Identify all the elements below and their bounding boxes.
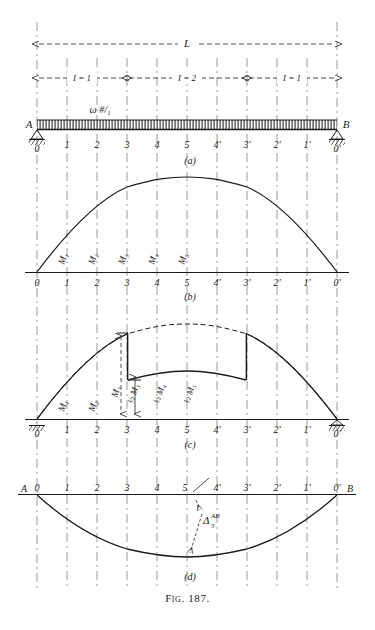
station-label-a-2: 2 — [95, 139, 100, 150]
station-labels-b: 0 1 2 3 4 5 4' 3' 2' 1' 0' — [35, 277, 342, 288]
station-label-b-3: 3 — [124, 277, 130, 288]
station-labels-a: 0 1 2 3 4 5 4' 3' 2' 1' 0' — [35, 139, 342, 154]
station-label-a-0: 0 — [35, 143, 40, 154]
uniform-load-strip — [37, 120, 337, 129]
station-label-a-1: 1 — [65, 139, 70, 150]
station-label-b-5: 5 — [185, 277, 190, 288]
station-label-b-2p: 2' — [273, 277, 281, 288]
station-label-c-3p: 3' — [242, 424, 251, 435]
station-label-c-5: 5 — [185, 424, 190, 435]
deflection-end-label-A: A — [20, 483, 28, 494]
station-label-c-0: 0 — [35, 428, 40, 439]
station-label-d-3: 3 — [124, 482, 130, 493]
panel-d: A B 0 1 2 3 4 5 4' 3' 2' 1' 0' Δ AB 5 (d… — [18, 478, 356, 583]
mi-curve-left-c — [37, 334, 127, 419]
figure-caption: Fig. 187. — [0, 592, 375, 604]
station-labels-d: 0 1 2 3 4 5 4' 3' 2' 1' 0' — [35, 482, 342, 493]
station-label-a-1p: 1' — [303, 139, 311, 150]
station-label-c-3: 3 — [124, 424, 130, 435]
station-label-c-4p: 4' — [213, 424, 221, 435]
station-label-b-4p: 4' — [213, 277, 221, 288]
panel-tag-d: (d) — [184, 571, 196, 583]
station-label-b-1p: 1' — [303, 277, 311, 288]
moment-ordinate-labels-b: M₁ M₂ M₃ M₄ M₅ — [56, 251, 189, 266]
station-labels-c: 0 1 2 3 4 5 4' 3' 2' 1' 0' — [35, 424, 342, 439]
figure-187: L I = 1 I = 2 I = 1 ω #/₁ A B — [0, 0, 375, 630]
deflection-annotation-d: Δ AB 5 — [202, 512, 220, 530]
deflection-delta-symbol: Δ — [202, 514, 209, 526]
station-label-d-4: 4 — [155, 482, 160, 493]
station-label-c-1p: 1' — [303, 424, 311, 435]
station-label-a-3p: 3' — [242, 139, 251, 150]
station-label-b-0p: 0' — [333, 277, 341, 288]
station-label-d-1p: 1' — [303, 482, 311, 493]
mi-curve-right-c — [247, 334, 337, 419]
panel-tag-a: (a) — [184, 155, 196, 167]
station-label-a-2p: 2' — [273, 139, 281, 150]
reduced-label-c-halfM5: ½ M₅ — [181, 383, 197, 405]
station-label-d-2p: 2' — [273, 482, 281, 493]
load-hatch-fill — [37, 120, 337, 129]
leader-lower-d — [190, 514, 202, 553]
station-label-d-3p: 3' — [242, 482, 251, 493]
reduced-label-c-halfM3: ½ M₃ — [125, 383, 141, 405]
station-label-c-0p: 0' — [333, 428, 341, 439]
station-label-b-3p: 3' — [242, 277, 251, 288]
station-gridlines — [37, 22, 337, 588]
station-label-a-4: 4 — [155, 139, 160, 150]
station-label-c-2p: 2' — [273, 424, 281, 435]
station-label-d-0: 0 — [35, 482, 40, 493]
beam-end-label-B: B — [343, 118, 350, 130]
station-label-c-2: 2 — [95, 424, 100, 435]
station-label-b-0: 0 — [35, 277, 40, 288]
dimension-label-seg2: I = 2 — [177, 73, 197, 83]
station-label-b-1: 1 — [65, 277, 70, 288]
reduced-label-c-halfM4: ½ M₄ — [151, 383, 167, 405]
station-label-d-2: 2 — [95, 482, 100, 493]
leader-upper-d — [193, 478, 209, 492]
panel-tag-c: (c) — [184, 439, 196, 451]
moment-label-b-M2: M₂ — [86, 251, 100, 266]
dimension-label-seg3: I = 1 — [282, 73, 301, 83]
station-label-b-2: 2 — [95, 277, 100, 288]
station-label-d-1: 1 — [65, 482, 70, 493]
load-intensity-label: ω #/₁ — [90, 104, 111, 115]
station-label-b-4: 4 — [155, 277, 160, 288]
station-label-a-3: 3 — [124, 139, 130, 150]
leader-mid-d — [196, 500, 200, 510]
station-label-a-5: 5 — [185, 139, 190, 150]
dimension-label-L: L — [183, 37, 190, 49]
station-label-c-1: 1 — [65, 424, 70, 435]
dimension-overall-span: L — [39, 36, 335, 50]
station-label-d-4p: 4' — [213, 482, 221, 493]
moment-label-c-M3: M₃ — [109, 385, 122, 400]
deflection-superscript-AB: AB — [210, 512, 220, 520]
station-label-d-0p: 0' — [333, 482, 341, 493]
station-label-c-4: 4 — [155, 424, 160, 435]
dimension-segments: I = 1 I = 2 I = 1 — [39, 70, 335, 84]
panel-tag-b: (b) — [184, 291, 196, 303]
ordinate-arrow-halfM3-c: ½ M₃ — [125, 377, 141, 414]
station-label-d-5: 5 — [183, 482, 188, 493]
station-label-a-4p: 4' — [213, 139, 221, 150]
deflection-end-label-B: B — [347, 483, 353, 494]
moment-label-c-M2: M₂ — [86, 398, 100, 413]
figure-canvas: L I = 1 I = 2 I = 1 ω #/₁ A B — [0, 0, 375, 630]
dimension-label-seg1: I = 1 — [72, 73, 91, 83]
beam-end-label-A: A — [25, 118, 33, 130]
deflection-subscript-5: 5 — [211, 522, 215, 530]
station-label-a-0p: 0' — [333, 143, 341, 154]
